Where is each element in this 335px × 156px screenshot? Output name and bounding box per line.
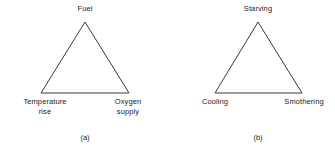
figure-page: Fuel Temperature rise Oxygen supply (a) … <box>0 0 335 156</box>
vertex-label-line1: Cooling <box>202 97 228 107</box>
vertex-label-oxygen-supply: Oxygen supply <box>101 97 155 117</box>
diagram-fire-triangle: Fuel Temperature rise Oxygen supply (a) <box>0 0 167 156</box>
vertex-label-smothering: Smothering <box>284 97 323 107</box>
triangle-shape <box>215 22 302 93</box>
vertex-label-cooling: Cooling <box>202 97 228 107</box>
triangle-shape <box>41 22 129 93</box>
vertex-label-line1: Smothering <box>284 97 323 107</box>
vertex-label-line1: Temperature <box>8 97 82 107</box>
figure-caption-a: (a) <box>80 133 89 142</box>
vertex-label-line2: supply <box>101 107 155 117</box>
vertex-label-line1: Oxygen <box>101 97 155 107</box>
apex-label-text: Starving <box>244 4 272 13</box>
apex-label-starving: Starving <box>244 4 272 14</box>
apex-label-text: Fuel <box>78 4 93 13</box>
diagram-extinguishment-triangle: Starving Cooling Smothering (b) <box>167 0 335 156</box>
triangle-outline-b <box>167 0 335 156</box>
vertex-label-line2: rise <box>8 107 82 117</box>
vertex-label-temperature-rise: Temperature rise <box>8 97 82 117</box>
figure-caption-b: (b) <box>253 133 262 142</box>
apex-label-fuel: Fuel <box>78 4 93 14</box>
